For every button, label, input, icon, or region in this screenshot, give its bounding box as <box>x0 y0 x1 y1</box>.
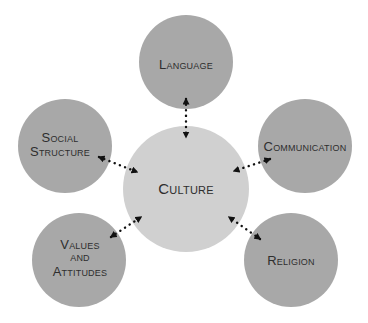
social-structure-label-line: Structure <box>30 144 90 159</box>
social-structure-label-line: Social <box>42 130 79 145</box>
culture-diagram: LanguageSocialStructureCommunicationValu… <box>0 0 368 323</box>
center-node: Culture <box>123 126 249 252</box>
node-religion: Religion <box>244 213 338 307</box>
culture-label: Culture <box>158 180 213 197</box>
node-communication: Communication <box>258 99 352 193</box>
values-and-attitudes-label-line: Attitudes <box>53 264 107 279</box>
node-values-and-attitudes: ValuesandAttitudes <box>32 213 126 307</box>
language-label-line: Language <box>159 57 213 72</box>
religion-label-line: Religion <box>267 253 315 268</box>
node-language: Language <box>139 15 233 109</box>
values-and-attitudes-label-line: and <box>70 249 90 264</box>
node-social-structure: SocialStructure <box>18 99 112 193</box>
communication-label-line: Communication <box>264 139 347 154</box>
